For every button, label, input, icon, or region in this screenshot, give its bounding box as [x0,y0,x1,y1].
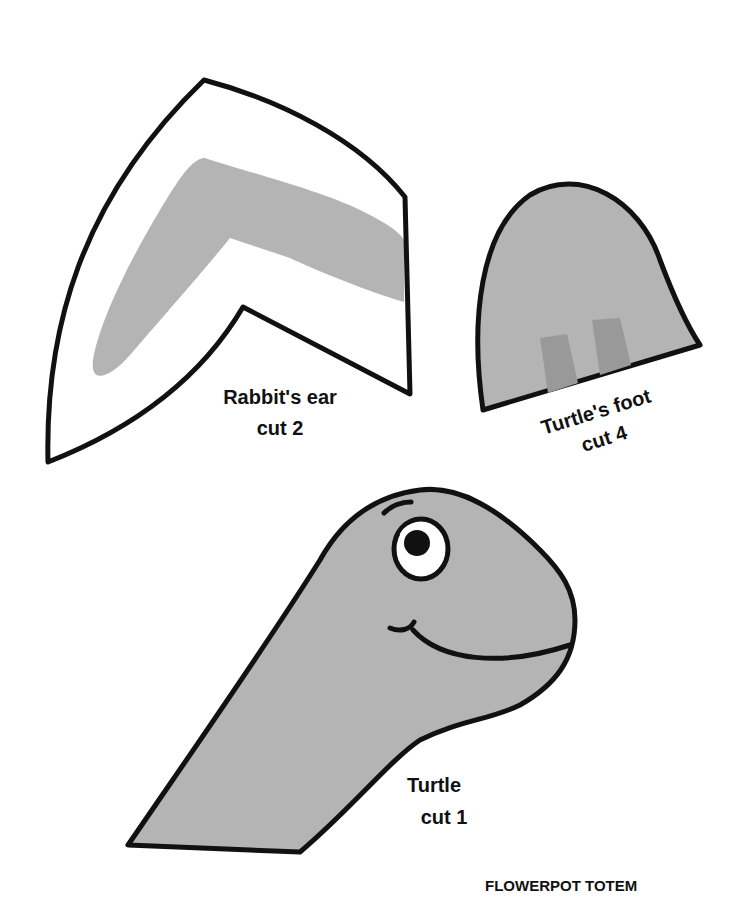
rabbit-ear-instruction: cut 2 [257,417,304,439]
turtle-label: Turtle [407,774,461,796]
turtle-foot-shape [478,184,700,410]
page-title: FLOWERPOT TOTEM [485,877,637,894]
turtle-pupil [404,530,430,556]
rabbit-ear-inner-shading [93,158,404,376]
turtle-body-shape [128,489,575,852]
rabbit-ear-piece: Rabbit's ear cut 2 [48,80,410,462]
turtle-piece: Turtle cut 1 [128,489,575,852]
turtle-instruction: cut 1 [421,806,468,828]
rabbit-ear-label: Rabbit's ear [223,386,337,408]
turtle-foot-piece: Turtle's foot cut 4 [478,184,700,465]
pattern-sheet: Rabbit's ear cut 2 Turtle's foot cut 4 T… [0,0,742,919]
